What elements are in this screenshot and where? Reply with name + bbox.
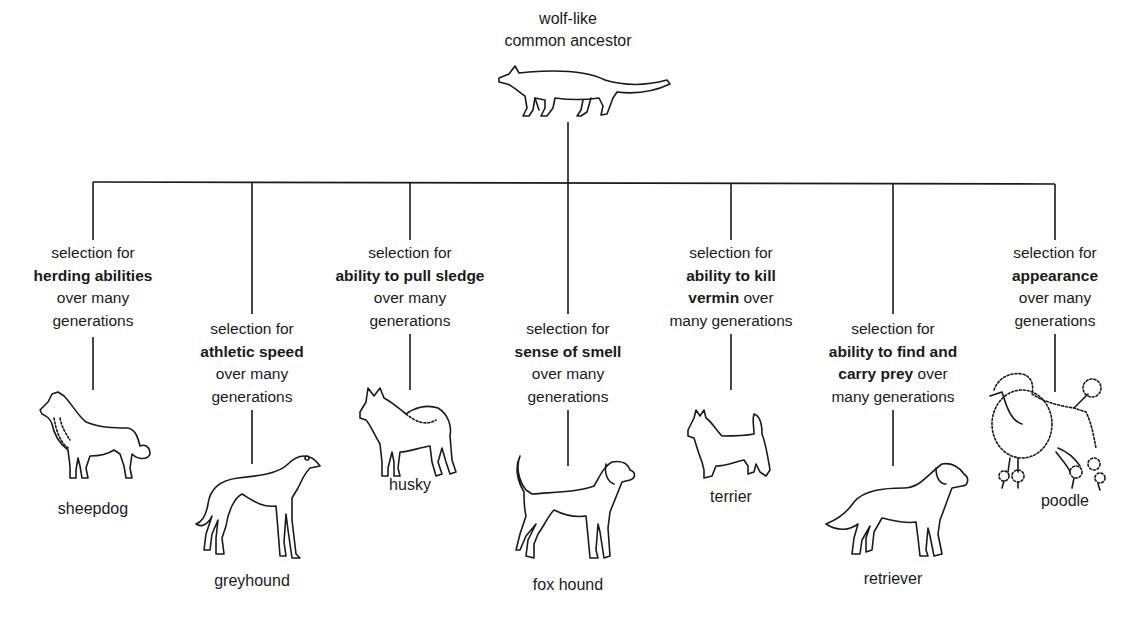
breed-name-terrier: terrier — [656, 488, 806, 506]
suffix-line1: over many — [315, 287, 505, 310]
trait-text-line1: ability to kill — [686, 267, 776, 284]
sheepdog-icon — [38, 388, 153, 483]
breed-name-fox-hound: fox hound — [493, 576, 643, 594]
selection-prefix: selection for — [315, 242, 505, 265]
breed-name-poodle: poodle — [990, 492, 1133, 510]
selection-prefix: selection for — [636, 242, 826, 265]
trait-text-line2: carry prey — [838, 365, 913, 382]
greyhound-icon — [192, 450, 327, 565]
trait-tail: over — [739, 289, 773, 306]
selection-prefix: selection for — [0, 242, 188, 265]
husky-icon — [356, 382, 461, 482]
suffix-line2: many generations — [798, 386, 988, 409]
breed-name-greyhound: greyhound — [177, 572, 327, 590]
selection-prefix: selection for — [960, 242, 1133, 265]
branch-label-fox-hound: selection for sense of smell over many g… — [473, 318, 663, 408]
suffix-line2: generations — [157, 386, 347, 409]
breed-name-husky: husky — [335, 476, 485, 494]
trait-text: sense of smell — [515, 343, 622, 360]
branch-label-poodle: selection for appearance over many gener… — [960, 242, 1133, 332]
trait-text: herding abilities — [34, 267, 153, 284]
selection-prefix: selection for — [473, 318, 663, 341]
trait-text-line1: ability to find and — [829, 343, 957, 360]
suffix-line2: generations — [473, 386, 663, 409]
retriever-icon — [824, 458, 969, 563]
suffix-line2: generations — [960, 310, 1133, 333]
suffix-line1: over many — [0, 287, 188, 310]
trait-tail: over — [913, 365, 947, 382]
breed-name-retriever: retriever — [818, 570, 968, 588]
suffix-line1: over many — [157, 363, 347, 386]
suffix-line1: over many — [473, 363, 663, 386]
suffix-line1: over many — [960, 287, 1133, 310]
trait-text-line2: vermin — [688, 289, 739, 306]
fox-hound-icon — [512, 452, 637, 567]
trait-text: appearance — [1012, 267, 1098, 284]
poodle-icon — [988, 368, 1113, 493]
trait-text: ability to pull sledge — [336, 267, 485, 284]
breed-name-sheepdog: sheepdog — [18, 500, 168, 518]
trait-text: athletic speed — [200, 343, 303, 360]
terrier-icon — [684, 408, 774, 483]
